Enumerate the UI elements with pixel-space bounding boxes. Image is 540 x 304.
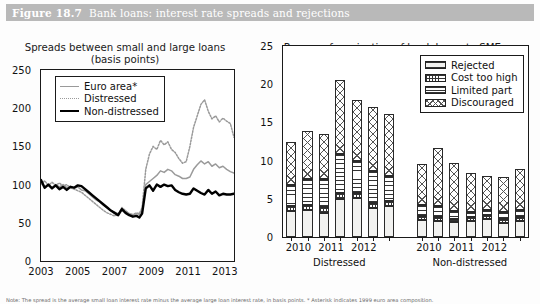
- left-y-axis-labels: 050100150200250: [0, 69, 35, 262]
- legend-label-non-distressed: Non-distressed: [84, 106, 159, 117]
- bar-segment-cost-too-high: [449, 219, 459, 222]
- left-y-tick-150: 150: [12, 141, 35, 152]
- cost-too-high-pattern-swatch-icon: [425, 74, 446, 82]
- bar-segment-limited-part: [417, 205, 427, 216]
- right-x-tick-non-distressed-2012: 2012: [482, 242, 507, 253]
- right-y-tick-20: 20: [260, 79, 277, 90]
- figure-title: Bank loans: interest rate spreads and re…: [89, 7, 350, 19]
- bar-segment-cost-too-high: [515, 217, 525, 221]
- bar-segment-rejected: [433, 221, 443, 237]
- bar-segment-cost-too-high: [384, 201, 394, 206]
- bar-segment-limited-part: [286, 185, 296, 206]
- left-x-tick-2007: 2007: [102, 266, 127, 277]
- bar-segment-discouraged: [433, 148, 443, 206]
- legend-item-cost-too-high: Cost too high: [425, 72, 518, 85]
- right-x-tick-non-distressed-2010: 2010: [416, 242, 441, 253]
- left-x-tick-2009: 2009: [139, 266, 164, 277]
- right-y-tick-25: 25: [260, 41, 277, 52]
- bar-segment-rejected: [449, 222, 459, 237]
- bar-segment-cost-too-high: [319, 207, 329, 212]
- stacked-bar: [352, 100, 362, 237]
- right-y-tick-0: 0: [267, 232, 277, 243]
- bar-segment-discouraged: [515, 169, 525, 210]
- bar-segment-limited-part: [302, 179, 312, 205]
- figure-root: Figure 18.7 Bank loans: interest rate sp…: [0, 0, 540, 304]
- x-tick-mark: [373, 237, 374, 241]
- bar-segment-discouraged: [319, 134, 329, 179]
- x-tick-mark: [389, 237, 390, 241]
- bar-segment-limited-part: [352, 161, 362, 193]
- legend-label-cost-too-high: Cost too high: [451, 72, 518, 83]
- legend-item-non-distressed: Non-distressed: [60, 105, 159, 118]
- bar-segment-cost-too-high: [302, 205, 312, 210]
- bar-segment-limited-part: [433, 206, 443, 217]
- x-tick-mark: [357, 237, 358, 241]
- bar-segment-cost-too-high: [482, 215, 492, 219]
- legend-item-euro-area: Euro area*: [60, 80, 159, 93]
- stacked-bar: [515, 169, 525, 237]
- x-tick-mark: [340, 237, 341, 241]
- figure-number: Figure 18.7: [12, 7, 82, 19]
- bar-segment-rejected: [335, 199, 345, 237]
- stacked-bar: [433, 148, 443, 237]
- bar-segment-limited-part: [384, 176, 394, 201]
- right-x-tick-non-distressed-2011: 2011: [449, 242, 474, 253]
- bar-segment-limited-part: [482, 210, 492, 215]
- group-label-non-distressed: Non-distressed: [432, 257, 507, 268]
- left-x-tick-2003: 2003: [28, 266, 53, 277]
- right-y-tick-10: 10: [260, 155, 277, 166]
- bar-segment-rejected: [352, 198, 362, 237]
- right-x-axis-labels: 201020112012201020112012: [282, 242, 529, 256]
- bar-segment-discouraged: [384, 114, 394, 176]
- x-tick-mark: [291, 237, 292, 241]
- stacked-bar: [335, 80, 345, 237]
- bar-segment-discouraged: [482, 176, 492, 210]
- stacked-bar: [466, 173, 476, 237]
- bar-segment-cost-too-high: [352, 193, 362, 198]
- non-distressed-line-swatch-icon: [60, 110, 79, 112]
- bar-segment-limited-part: [319, 179, 329, 207]
- left-y-tick-50: 50: [18, 217, 35, 228]
- legend-item-limited-part: Limited part: [425, 84, 518, 97]
- limited-part-pattern-swatch-icon: [425, 86, 446, 94]
- right-x-tick-distressed-2010: 2010: [286, 242, 311, 253]
- left-chart-title: Spreads between small and large loans (b…: [0, 42, 250, 65]
- stacked-bar: [498, 177, 508, 237]
- bar-segment-discouraged: [302, 131, 312, 179]
- euro-area-line-swatch-icon: [60, 86, 79, 87]
- left-chart-legend: Euro area* Distressed Non-distressed: [55, 76, 165, 122]
- bar-segment-rejected: [368, 208, 378, 237]
- legend-label-euro-area: Euro area*: [84, 81, 137, 92]
- right-group-labels: DistressedNon-distressed: [282, 257, 527, 271]
- bar-segment-limited-part: [368, 171, 378, 202]
- bar-segment-limited-part: [515, 210, 525, 217]
- x-tick-mark: [503, 237, 504, 241]
- bar-segment-rejected: [302, 210, 312, 238]
- bar-segment-rejected: [498, 223, 508, 237]
- bar-segment-discouraged: [286, 142, 296, 186]
- stacked-bar: [302, 131, 312, 237]
- legend-item-distressed: Distressed: [60, 93, 159, 106]
- bar-segment-limited-part: [498, 212, 508, 220]
- bar-segment-discouraged: [335, 80, 345, 153]
- bar-segment-discouraged: [368, 107, 378, 171]
- left-x-tick-2005: 2005: [65, 266, 90, 277]
- left-y-tick-100: 100: [12, 179, 35, 190]
- stacked-bar: [286, 142, 296, 238]
- right-chart-legend: Rejected Cost too high Limited part Disc…: [420, 55, 524, 113]
- figure-footnote: Note: The spread is the average small lo…: [6, 297, 534, 303]
- right-y-axis-labels: 0510152025: [250, 45, 277, 238]
- x-tick-mark: [324, 237, 325, 241]
- stacked-bar: [368, 107, 378, 237]
- figure-header-bar: Figure 18.7 Bank loans: interest rate sp…: [6, 4, 534, 21]
- bar-segment-discouraged: [352, 100, 362, 161]
- x-tick-mark: [438, 237, 439, 241]
- distressed-line-swatch-icon: [60, 98, 79, 99]
- bar-segment-cost-too-high: [466, 217, 476, 221]
- legend-item-discouraged: Discouraged: [425, 97, 518, 110]
- x-tick-mark: [487, 237, 488, 241]
- legend-label-limited-part: Limited part: [451, 85, 512, 96]
- stacked-bar: [417, 164, 427, 237]
- left-x-tick-2013: 2013: [212, 266, 237, 277]
- bar-segment-rejected: [319, 213, 329, 237]
